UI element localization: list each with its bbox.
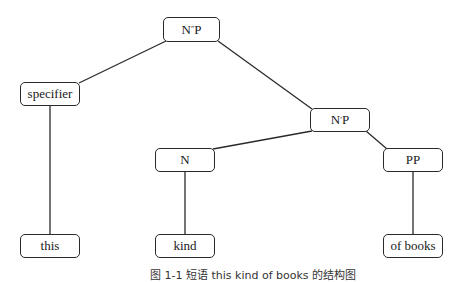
node-this: this — [20, 234, 80, 258]
node-label: kind — [173, 238, 196, 254]
node-label: PP — [406, 152, 420, 168]
node-of-books: of books — [383, 234, 443, 258]
node-nbarp: N′P — [310, 108, 370, 132]
node-label: specifier — [28, 86, 73, 102]
node-label-tail: P — [342, 112, 349, 128]
node-n: N — [155, 148, 215, 172]
node-kind: kind — [155, 234, 215, 258]
node-label: N — [182, 22, 191, 38]
node-label: N — [331, 112, 340, 128]
node-label: of books — [390, 238, 435, 254]
node-label-tail: P — [194, 22, 201, 38]
figure-caption: 图 1-1 短语 this kind of books 的结构图 — [150, 266, 320, 282]
edge-nbarp-pp — [366, 131, 387, 149]
edge-root-nbarp — [218, 41, 312, 109]
node-specifier: specifier — [20, 82, 80, 106]
edge-nbarp-n — [213, 131, 312, 149]
node-label: this — [41, 238, 60, 254]
node-label: N — [180, 152, 189, 168]
node-nbar2p: N″P — [163, 17, 220, 42]
node-pp: PP — [383, 148, 443, 172]
edge-root-specifier — [79, 41, 166, 83]
